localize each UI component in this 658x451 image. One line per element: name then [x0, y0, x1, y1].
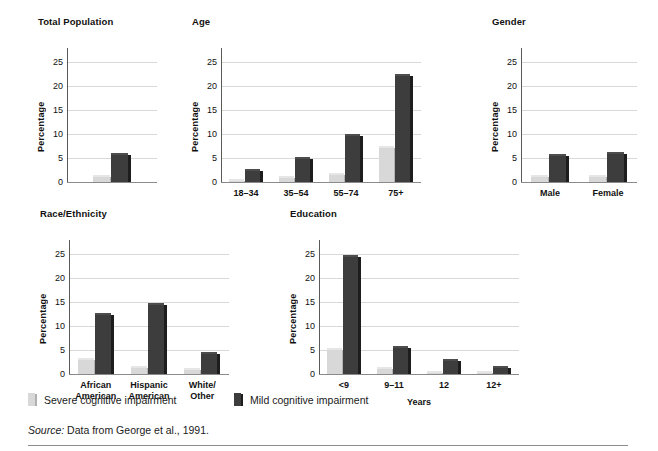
y-axis-tick-label: 25 — [305, 249, 315, 259]
bar-severe — [477, 373, 492, 374]
y-axis-label: Percentage — [190, 72, 200, 152]
y-axis-tick-label: 20 — [305, 273, 315, 283]
bar-mild — [393, 348, 408, 374]
legend-swatch-mild-icon — [234, 393, 243, 406]
bar-mild — [607, 154, 624, 182]
y-axis-tick-label: 25 — [53, 57, 63, 67]
y-axis-label: Percentage — [36, 72, 46, 152]
y-axis-label: Percentage — [288, 264, 298, 344]
x-axis-tick-label: 12 — [419, 380, 469, 391]
bar-severe — [229, 181, 244, 182]
bar-severe — [427, 373, 442, 374]
bar-mild — [443, 361, 458, 374]
y-axis-tick-label: 0 — [60, 369, 65, 379]
plot-area: 0510152025 — [67, 52, 157, 182]
bar-severe — [377, 369, 392, 374]
y-axis-tick-label: 20 — [507, 81, 517, 91]
y-axis-line — [319, 240, 320, 374]
y-axis-tick-label: 5 — [512, 153, 517, 163]
y-axis-tick-label: 0 — [512, 177, 517, 187]
source-note: Source: Data from George et al., 1991. — [28, 424, 209, 436]
grid-line — [221, 110, 421, 111]
legend: Severe cognitive impairment Mild cogniti… — [28, 393, 448, 413]
y-axis-tick-label: 5 — [212, 153, 217, 163]
grid-line — [67, 86, 157, 87]
grid-line — [69, 254, 229, 255]
chart-title: Education — [290, 208, 337, 219]
bar-mild — [148, 305, 164, 374]
x-axis-tick-label: 9–11 — [369, 380, 419, 391]
plot-area: 0510152025<99–111212+ — [319, 244, 519, 374]
y-axis-line — [221, 48, 222, 182]
y-axis-tick-label: 25 — [507, 57, 517, 67]
grid-line — [67, 110, 157, 111]
bar-mild — [343, 257, 358, 374]
bar-mild — [245, 171, 260, 182]
grid-line — [221, 62, 421, 63]
chart-panel-total-population: Total Population Percentage 0510152025 — [38, 16, 188, 191]
y-axis-tick-label: 10 — [53, 129, 63, 139]
chart-title: Race/Ethnicity — [40, 208, 107, 219]
source-prefix: Source: — [28, 424, 64, 436]
x-axis-line — [319, 374, 519, 375]
y-axis-line — [521, 48, 522, 182]
grid-line — [221, 134, 421, 135]
grid-line — [67, 62, 157, 63]
x-axis-tick-label: 35–54 — [271, 188, 321, 199]
x-axis-tick-label: 75+ — [371, 188, 421, 199]
legend-label-mild: Mild cognitive impairment — [250, 394, 368, 406]
bar-severe — [279, 178, 294, 182]
x-axis-tick-label: 12+ — [469, 380, 519, 391]
x-axis-tick-label: Female — [579, 188, 637, 199]
bar-severe — [531, 177, 548, 182]
bar-mild — [95, 315, 111, 374]
y-axis-tick-label: 5 — [310, 345, 315, 355]
bar-mild — [345, 136, 360, 182]
x-axis-tick-label: 18–34 — [221, 188, 271, 199]
y-axis-tick-label: 25 — [55, 249, 65, 259]
chart-panel-race-ethnicity: Race/Ethnicity Percentage 0510152025Afri… — [40, 208, 255, 388]
bottom-rule — [28, 445, 628, 446]
y-axis-tick-label: 15 — [55, 297, 65, 307]
y-axis-tick-label: 0 — [310, 369, 315, 379]
x-axis-tick-label: 55–74 — [321, 188, 371, 199]
y-axis-tick-label: 20 — [53, 81, 63, 91]
y-axis-tick-label: 15 — [53, 105, 63, 115]
y-axis-tick-label: 10 — [305, 321, 315, 331]
legend-label-severe: Severe cognitive impairment — [44, 394, 176, 406]
bar-mild — [549, 156, 566, 182]
legend-item-severe: Severe cognitive impairment — [28, 393, 176, 406]
plot-area: 051015202518–3435–5455–7475+ — [221, 52, 421, 182]
bar-mild — [201, 354, 217, 374]
y-axis-tick-label: 5 — [60, 345, 65, 355]
x-axis-tick-label: Male — [521, 188, 579, 199]
bar-mild — [493, 368, 508, 374]
grid-line — [521, 62, 637, 63]
grid-line — [521, 86, 637, 87]
bar-severe — [379, 148, 394, 182]
legend-item-mild: Mild cognitive impairment — [234, 393, 368, 406]
y-axis-label: Percentage — [38, 264, 48, 344]
bar-severe — [329, 175, 344, 182]
chart-panel-gender: Gender Percentage 0510152025MaleFemale — [492, 16, 652, 206]
x-axis-line — [67, 182, 157, 183]
grid-line — [221, 86, 421, 87]
y-axis-tick-label: 10 — [207, 129, 217, 139]
bar-severe — [131, 368, 147, 374]
bar-mild — [111, 155, 128, 182]
y-axis-tick-label: 15 — [305, 297, 315, 307]
legend-swatch-severe-icon — [28, 393, 37, 406]
bar-mild — [295, 159, 310, 182]
grid-line — [67, 134, 157, 135]
y-axis-tick-label: 10 — [507, 129, 517, 139]
x-axis-line — [521, 182, 637, 183]
bar-severe — [589, 177, 606, 182]
source-text: Data from George et al., 1991. — [64, 424, 209, 436]
chart-title: Age — [192, 16, 210, 27]
y-axis-tick-label: 20 — [55, 273, 65, 283]
plot-area: 0510152025AfricanAmericanHispanicAmerica… — [69, 244, 229, 374]
chart-panel-education: Education Percentage 0510152025<99–11121… — [290, 208, 530, 398]
chart-title: Total Population — [38, 16, 113, 27]
x-axis-line — [69, 374, 229, 375]
chart-title: Gender — [492, 16, 526, 27]
